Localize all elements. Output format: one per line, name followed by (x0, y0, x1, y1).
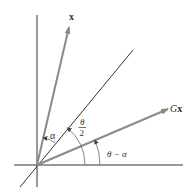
reflection-diagram: x Gx α θ 2 θ − α (0, 0, 193, 195)
label-theta-half-denominator: 2 (80, 128, 85, 138)
arc-theta-minus-alpha (95, 140, 100, 165)
label-theta-half-numerator: θ (80, 117, 85, 127)
label-x: x (69, 11, 74, 22)
label-gx-x: x (177, 103, 182, 114)
label-gx-g: G (170, 103, 177, 114)
label-theta-minus-alpha: θ − α (107, 149, 127, 159)
vector-x (37, 27, 69, 165)
label-gx: Gx (170, 103, 182, 114)
label-alpha: α (50, 130, 56, 141)
vector-gx (37, 109, 168, 165)
